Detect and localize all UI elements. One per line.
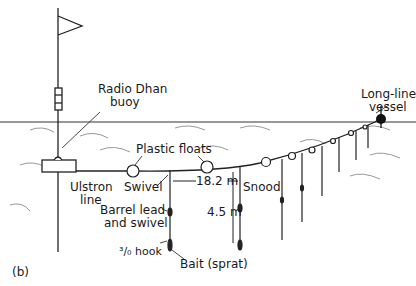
bait-label: Bait (sprat) [180,258,248,271]
depth-label: 4.5 m [207,206,242,219]
radio-buoy [42,8,82,252]
longline-diagram: Radio Dhanbuoy Long-linevessel Plastic f… [0,0,416,286]
vessel-label: Long-linevessel [361,88,416,114]
snood-label: Snood [243,181,281,194]
spacing-label: 18.2 m [196,175,238,188]
radio-buoy-label: Radio Dhanbuoy [98,83,167,109]
panel-label: (b) [12,266,29,279]
swivel-label: Swivel [124,181,163,194]
plastic-floats-label: Plastic floats [136,143,212,156]
hook-label: ³/₀ hook [119,245,162,258]
main-line [76,116,384,171]
barrel-lead-label: Barrel leadand swivel [100,204,168,230]
